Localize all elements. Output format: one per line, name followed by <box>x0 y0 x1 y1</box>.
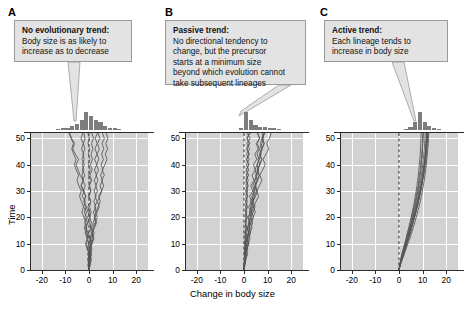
histogram-bar <box>427 126 431 130</box>
y-tick-label: 0 <box>0 265 25 275</box>
y-tick <box>182 270 185 271</box>
histogram-bar <box>249 120 253 130</box>
y-tick-label: 30 <box>0 186 25 196</box>
histogram-bar <box>65 128 69 130</box>
panel-a: A No evolutionary trend: Body size is as… <box>0 0 155 311</box>
y-tick-label: 10 <box>0 239 25 249</box>
histogram-bar <box>56 129 60 131</box>
y-tick <box>27 138 30 139</box>
histogram-bar <box>98 122 102 130</box>
lineage-curves <box>185 133 303 270</box>
histogram-bar <box>113 128 117 130</box>
y-tick-label: 40 <box>0 160 25 170</box>
histogram-bar <box>61 128 65 130</box>
histogram-bar <box>84 112 88 130</box>
callout-b-line-4: beyond which evolution cannot <box>173 68 299 79</box>
x-tick <box>375 271 376 274</box>
callout-b: Passive trend: No directional tendency t… <box>165 20 306 85</box>
histogram-bar <box>277 129 281 131</box>
plot-area <box>340 133 458 270</box>
histogram-bar <box>89 116 93 130</box>
y-tick <box>27 270 30 271</box>
histogram-bar <box>432 128 436 130</box>
y-axis-title-a: Time <box>6 205 17 225</box>
callout-b-line-1: No directional tendency to <box>173 37 299 48</box>
callout-b-heading: Passive trend: <box>173 26 299 37</box>
y-tick-label: 10 <box>155 239 180 249</box>
y-tick <box>337 270 340 271</box>
x-tick <box>446 271 447 274</box>
histogram-bar <box>272 128 276 130</box>
x-tick-label: 20 <box>122 275 150 285</box>
y-axis-line <box>340 133 341 270</box>
plot-area <box>30 133 148 270</box>
y-tick-label: 30 <box>155 186 180 196</box>
lineage-path <box>399 133 423 270</box>
panel-b: B Passive trend: No directional tendency… <box>155 0 310 311</box>
y-tick-label: 10 <box>310 239 335 249</box>
y-axis-line <box>30 133 31 270</box>
histogram-bar <box>70 126 74 130</box>
histogram-bar <box>423 122 427 130</box>
callout-a-line-2: increase as to decrease <box>22 47 125 58</box>
histogram-bar <box>418 112 422 130</box>
y-tick-label: 20 <box>155 212 180 222</box>
y-tick <box>182 165 185 166</box>
histogram-bar <box>263 127 267 130</box>
y-tick <box>337 217 340 218</box>
x-tick-label: 20 <box>277 275 305 285</box>
y-axis-line <box>185 133 186 270</box>
callout-c: Active trend: Each lineage tends to incr… <box>324 20 448 62</box>
y-tick <box>27 191 30 192</box>
histogram-bar <box>103 126 107 130</box>
x-tick-label: 20 <box>432 275 460 285</box>
x-tick <box>352 271 353 274</box>
x-tick <box>65 271 66 274</box>
y-tick <box>337 191 340 192</box>
lineage-curves <box>30 133 148 270</box>
y-tick <box>337 138 340 139</box>
callout-c-heading: Active trend: <box>332 26 441 37</box>
y-tick <box>182 191 185 192</box>
callout-c-line-2: increase in body size <box>332 47 441 58</box>
y-tick-label: 50 <box>0 133 25 143</box>
y-tick-label: 40 <box>310 160 335 170</box>
histogram-bar <box>239 128 243 130</box>
callout-c-line-1: Each lineage tends to <box>332 37 441 48</box>
y-tick <box>182 138 185 139</box>
histogram <box>155 112 310 132</box>
y-tick <box>27 244 30 245</box>
histogram-bar <box>75 124 79 130</box>
y-tick-label: 30 <box>310 186 335 196</box>
figure-root: A No evolutionary trend: Body size is as… <box>0 0 467 311</box>
y-tick <box>27 165 30 166</box>
histogram-bar <box>437 129 441 131</box>
histogram-bar <box>244 112 248 130</box>
callout-b-line-3: starts at a minimum size <box>173 58 299 69</box>
y-tick-label: 50 <box>310 133 335 143</box>
panel-letter-a: A <box>8 7 16 18</box>
x-tick <box>291 271 292 274</box>
x-axis-title-b: Change in body size <box>155 288 310 299</box>
y-tick <box>182 244 185 245</box>
lineage-path <box>69 133 89 270</box>
panel-letter-c: C <box>320 7 328 18</box>
histogram-bar <box>253 125 257 130</box>
panel-c: C Active trend: Each lineage tends to in… <box>310 0 465 311</box>
x-tick <box>220 271 221 274</box>
callout-a-line-1: Body size is as likely to <box>22 37 125 48</box>
callout-a: No evolutionary trend: Body size is as l… <box>14 20 132 62</box>
y-tick-label: 0 <box>310 265 335 275</box>
histogram <box>0 112 155 132</box>
x-tick <box>268 271 269 274</box>
histogram-bar <box>404 129 408 131</box>
x-tick <box>42 271 43 274</box>
x-tick <box>399 271 400 274</box>
y-tick-label: 40 <box>155 160 180 170</box>
plot-area <box>185 133 303 270</box>
y-tick <box>337 165 340 166</box>
x-tick <box>423 271 424 274</box>
callout-a-heading: No evolutionary trend: <box>22 26 125 37</box>
histogram <box>310 112 465 132</box>
histogram-bar <box>258 127 262 130</box>
